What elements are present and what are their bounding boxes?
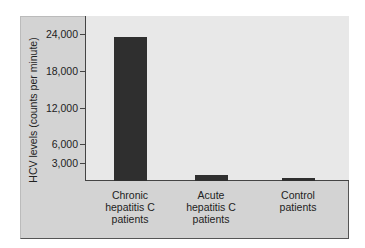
y-tick: [80, 163, 85, 164]
bar: [195, 175, 228, 181]
x-category-label: Chronichepatitis Cpatients: [90, 189, 170, 225]
y-tick: [80, 71, 85, 72]
y-tick-label: 24,000: [18, 28, 78, 40]
x-category-label: Controlpatients: [258, 189, 338, 213]
y-tick-label: 18,000: [18, 65, 78, 77]
y-tick: [80, 144, 85, 145]
y-tick: [80, 34, 85, 35]
bar: [114, 37, 147, 181]
y-tick: [80, 108, 85, 109]
y-tick-label: 6,000: [18, 138, 78, 150]
y-tick-label: 3,000: [18, 157, 78, 169]
bar: [282, 178, 315, 181]
y-tick-label: 12,000: [18, 102, 78, 114]
x-category-label: Acutehepatitis Cpatients: [171, 189, 251, 225]
